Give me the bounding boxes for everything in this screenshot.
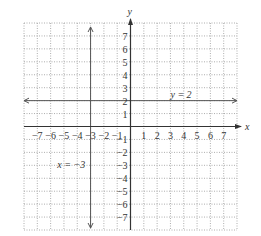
y-tick-label: −4: [117, 173, 128, 184]
x-tick-label: −6: [45, 130, 56, 141]
x-tick-label: 5: [195, 130, 200, 141]
y-axis-label: y: [127, 6, 133, 17]
x-axis-arrow-icon: [235, 124, 242, 129]
coordinate-plane: xy −7−6−5−4−3−2−112345677654321−1−2−3−4−…: [0, 0, 261, 236]
line-label: x = −3: [56, 159, 85, 170]
x-axis-label: x: [244, 121, 250, 132]
y-axis-arrow-icon: [128, 18, 133, 25]
y-tick-label: −3: [117, 160, 128, 171]
y-tick-label: 1: [123, 109, 128, 120]
x-tick-label: −5: [59, 130, 70, 141]
y-tick-label: −7: [117, 212, 128, 223]
y-tick-label: 3: [123, 83, 128, 94]
x-tick-label: 2: [155, 130, 160, 141]
x-tick-label: 4: [181, 130, 186, 141]
x-tick-label: 1: [141, 130, 146, 141]
x-tick-label: −2: [99, 130, 110, 141]
x-tick-label: −7: [32, 130, 43, 141]
y-tick-label: −2: [117, 147, 128, 158]
y-tick-label: 4: [123, 70, 128, 81]
y-tick-label: −1: [117, 134, 128, 145]
y-tick-label: 6: [123, 44, 128, 55]
y-tick-label: −5: [117, 186, 128, 197]
x-tick-label: −4: [72, 130, 83, 141]
x-tick-label: 7: [221, 130, 226, 141]
x-tick-label: 3: [168, 130, 173, 141]
y-tick-label: −6: [117, 199, 128, 210]
axes: xy: [24, 6, 250, 230]
x-tick-label: 6: [208, 130, 213, 141]
y-tick-label: 7: [123, 31, 128, 42]
x-tick-label: −3: [85, 130, 96, 141]
line-label: y = 2: [169, 89, 191, 100]
y-tick-label: 2: [123, 96, 128, 107]
y-tick-label: 5: [123, 57, 128, 68]
